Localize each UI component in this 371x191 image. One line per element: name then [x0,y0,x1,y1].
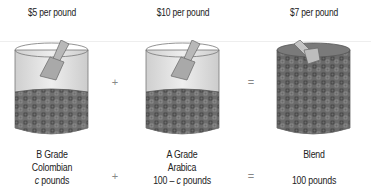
label-blend: Blend 100 pounds [266,148,363,187]
label-spacer [266,161,363,174]
label-a-grade-arabica: A Grade Arabica 100 – c pounds [134,148,231,187]
price-label-blend: $7 per pound [263,7,365,18]
quantity-prefix: 100 – [153,175,176,186]
label-quantity: 100 pounds [266,174,363,187]
jar-blend [276,40,351,140]
label-name-line1: B Grade [4,148,101,161]
label-quantity: 100 – c pounds [134,174,231,187]
label-name-line2: Arabica [134,161,231,174]
quantity-suffix: pounds [39,175,69,186]
label-quantity: c pounds [4,174,101,187]
price-label-a-grade: $10 per pound [132,7,234,18]
label-name-line2: Colombian [4,161,101,174]
plus-operator-top: + [108,76,122,88]
label-b-grade-colombian: B Grade Colombian c pounds [4,148,101,187]
equals-operator-bottom: = [244,170,258,182]
jar-a-grade-arabica [145,40,220,140]
quantity-suffix: pounds [181,175,211,186]
jar-b-grade-colombian [14,40,89,140]
label-name-line1: Blend [266,148,363,161]
label-name-line1: A Grade [134,148,231,161]
plus-operator-bottom: + [108,170,122,182]
equals-operator-top: = [244,76,258,88]
price-label-b-grade: $5 per pound [1,7,103,18]
